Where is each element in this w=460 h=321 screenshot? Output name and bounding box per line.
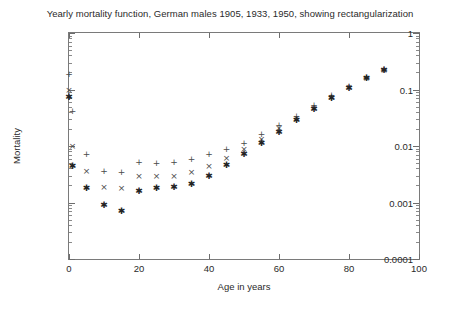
y-tick-label: 1 (408, 28, 413, 39)
y-tick-minor (69, 232, 72, 233)
y-tick-minor (69, 50, 72, 51)
y-tick-major (413, 90, 419, 91)
data-point-1905: + (153, 159, 161, 168)
data-point-1950: ✱ (83, 184, 91, 193)
data-point-1933: × (240, 144, 248, 153)
x-tick-major (279, 33, 280, 38)
y-tick-minor (416, 155, 419, 156)
y-tick-minor (69, 151, 72, 152)
y-tick-minor (69, 168, 72, 169)
data-point-1905: + (69, 106, 77, 115)
data-point-1933: × (83, 167, 91, 176)
x-tick-label: 0 (66, 263, 71, 274)
y-tick-minor (69, 72, 72, 73)
data-point-1933: × (188, 168, 196, 177)
y-tick-minor (69, 102, 72, 103)
y-tick-minor (69, 211, 72, 212)
data-point-1933: × (310, 103, 318, 112)
data-point-1905: + (328, 90, 336, 99)
y-tick-minor (416, 98, 419, 99)
data-point-1950: ✱ (258, 138, 266, 147)
data-point-1950: ✱ (118, 206, 126, 215)
y-tick-minor (69, 38, 72, 39)
y-tick-label: 0.0001 (384, 254, 413, 265)
y-tick-minor (416, 95, 419, 96)
x-tick-major (69, 254, 70, 259)
data-point-1950: ✱ (153, 184, 161, 193)
y-axis-label-host: Mortality (14, 0, 15, 321)
y-tick-minor (416, 119, 419, 120)
y-tick-minor (69, 46, 72, 47)
y-tick-minor (416, 151, 419, 152)
y-tick-minor (416, 129, 419, 130)
y-tick-minor (416, 185, 419, 186)
y-tick-minor (416, 50, 419, 51)
y-tick-minor (69, 215, 72, 216)
data-point-1933: × (223, 153, 231, 162)
y-tick-major (413, 259, 419, 260)
y-tick-minor (416, 205, 419, 206)
data-point-1950: ✱ (363, 73, 371, 82)
y-tick-major (69, 90, 75, 91)
data-point-1933: × (380, 65, 388, 74)
y-tick-minor (69, 63, 72, 64)
x-tick-label: 20 (134, 263, 145, 274)
y-tick-major (413, 203, 419, 204)
data-point-1950: ✱ (205, 171, 213, 180)
y-tick-minor (69, 205, 72, 206)
y-tick-minor (416, 63, 419, 64)
x-tick-label: 60 (274, 263, 285, 274)
x-tick-major (69, 33, 70, 38)
data-point-1905: + (310, 101, 318, 110)
y-tick-label: 0.001 (389, 197, 413, 208)
y-tick-minor (69, 163, 72, 164)
y-tick-minor (69, 155, 72, 156)
data-point-1933: × (345, 83, 353, 92)
x-tick-major (349, 254, 350, 259)
y-tick-major (69, 259, 75, 260)
data-point-1905: + (100, 167, 108, 176)
data-point-1933: × (118, 184, 126, 193)
y-tick-minor (416, 92, 419, 93)
data-point-1950: ✱ (170, 182, 178, 191)
data-point-1905: + (118, 168, 126, 177)
data-point-1905: + (188, 155, 196, 164)
y-tick-minor (69, 185, 72, 186)
y-tick-minor (416, 163, 419, 164)
y-tick-minor (416, 159, 419, 160)
data-point-1933: × (275, 124, 283, 133)
data-point-1950: ✱ (275, 127, 283, 136)
data-point-1950: ✱ (100, 200, 108, 209)
x-tick-major (419, 254, 420, 259)
y-tick-minor (416, 46, 419, 47)
y-tick-minor (416, 208, 419, 209)
y-tick-minor (69, 98, 72, 99)
data-point-1950: ✱ (135, 186, 143, 195)
chart-figure: Yearly mortality function, German males … (0, 0, 460, 321)
data-point-1905: + (205, 150, 213, 159)
data-point-1905: + (345, 82, 353, 91)
y-axis-label: Mortality (11, 128, 22, 164)
y-tick-minor (416, 72, 419, 73)
y-tick-minor (69, 95, 72, 96)
y-tick-minor (416, 242, 419, 243)
data-point-1905: + (380, 65, 388, 74)
data-point-1933: × (170, 171, 178, 180)
y-tick-minor (416, 225, 419, 226)
x-tick-label: 100 (411, 263, 427, 274)
data-point-1933: × (100, 182, 108, 191)
data-point-1950: ✱ (223, 161, 231, 170)
y-tick-minor (416, 102, 419, 103)
y-tick-label: 0.1 (400, 84, 413, 95)
y-tick-minor (416, 215, 419, 216)
data-point-1933: × (293, 114, 301, 123)
y-tick-minor (69, 107, 72, 108)
data-point-1933: × (205, 162, 213, 171)
y-tick-major (413, 146, 419, 147)
data-point-1905: + (223, 144, 231, 153)
y-tick-minor (69, 149, 72, 150)
data-point-1950: ✱ (345, 83, 353, 92)
y-tick-minor (69, 42, 72, 43)
x-tick-label: 80 (344, 263, 355, 274)
data-point-1905: + (363, 73, 371, 82)
